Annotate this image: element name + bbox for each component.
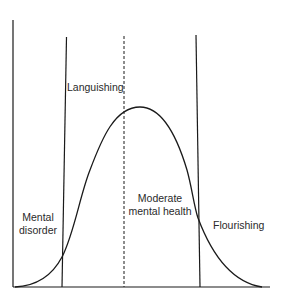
label-mental-disorder: Mental disorder [14,211,62,237]
label-moderate-line2: mental health [125,205,195,218]
continuum-diagram [0,0,281,300]
divider-flourishing [196,35,200,287]
label-moderate-line1: Moderate [125,192,195,205]
label-moderate-mental-health: Moderate mental health [125,192,195,218]
label-mental-disorder-line1: Mental [14,211,62,224]
label-mental-disorder-line2: disorder [14,224,62,237]
label-flourishing: Flourishing [213,219,264,232]
label-languishing: Languishing [67,81,124,94]
